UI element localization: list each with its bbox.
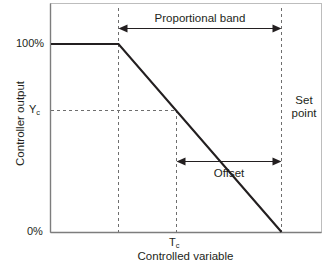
x-tick-label-tc-base: T xyxy=(169,236,176,248)
set-point-label: Set point xyxy=(282,94,326,120)
proportional-band-arrow xyxy=(119,25,282,33)
y-tick-label-0: 0% xyxy=(27,225,43,237)
plot-frame xyxy=(51,4,322,233)
proportional-band-label: Proportional band xyxy=(119,12,281,25)
y-tick-label-yc: Yc xyxy=(29,103,40,117)
set-point-label-line2: point xyxy=(282,107,326,120)
y-axis-title: Controller output xyxy=(14,38,27,208)
x-tick-label-tc: Tc xyxy=(169,236,180,250)
offset-label: Offset xyxy=(177,167,281,180)
y-tick-label-100: 100% xyxy=(16,37,44,49)
offset-arrow xyxy=(177,158,282,166)
controller-output-curve xyxy=(51,44,282,232)
proportional-control-chart xyxy=(0,0,327,268)
x-tick-label-tc-subscript: c xyxy=(176,241,180,250)
set-point-label-line1: Set xyxy=(282,94,326,107)
x-axis-title: Controlled variable xyxy=(78,250,293,263)
y-tick-label-yc-subscript: c xyxy=(36,108,40,117)
